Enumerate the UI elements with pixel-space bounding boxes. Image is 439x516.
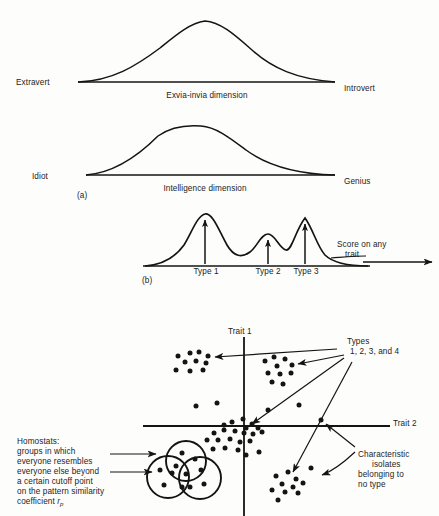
scatter-dot <box>230 420 235 425</box>
genius-pole-label: Genius <box>344 177 371 187</box>
scatter-dot <box>283 490 288 495</box>
homostats-line-4: a certain cutoff point <box>17 477 93 487</box>
exvia-invia-curve-group <box>78 21 335 82</box>
scatter-dot <box>216 438 221 443</box>
exvia-invia-curve <box>78 21 335 82</box>
scatter-dot <box>291 485 296 490</box>
scatter-dot <box>266 371 271 376</box>
isolates-label-line2: isolates <box>372 460 401 470</box>
scatter-dot <box>215 401 220 406</box>
scatter-dot <box>188 369 193 374</box>
scatter-dot <box>180 485 185 490</box>
homostat-circle-3 <box>179 457 221 499</box>
scatter-dot <box>188 351 193 356</box>
homostats-line-6: coefficient rp <box>17 497 64 509</box>
scatter-dot <box>223 446 228 451</box>
cluster-type-4 <box>270 470 306 503</box>
scatter-dot <box>199 468 204 473</box>
homostats-line-2: everyone resembles <box>17 457 93 467</box>
scatter-dot <box>241 417 246 422</box>
score-on-any-trait-label-line1: Score on any <box>337 240 386 250</box>
isolates-arrow-upper <box>326 424 355 447</box>
scatter-annotation-arrows <box>110 349 355 475</box>
extravert-pole-label: Extravert <box>16 78 50 88</box>
scatter-dot <box>184 472 189 477</box>
figure-vector-layer <box>0 0 439 516</box>
cluster-type-2 <box>263 355 295 387</box>
scatter-dot <box>193 457 198 462</box>
scatter-dot <box>183 360 188 365</box>
scatter-dot <box>174 368 179 373</box>
scatter-dot <box>204 361 209 366</box>
scatter-dot <box>244 453 249 458</box>
intelligence-dimension-label: Intelligence dimension <box>110 184 300 194</box>
types-label-line1: Types <box>347 337 369 347</box>
homostat-circle-2 <box>147 456 189 498</box>
scatter-dot <box>276 498 281 503</box>
scatter-dot <box>294 477 299 482</box>
scatter-dot <box>162 483 167 488</box>
scatter-dot <box>280 482 285 487</box>
type-3-label: Type 3 <box>283 267 329 277</box>
isolates-label-line3: belonging to <box>358 470 404 480</box>
scatter-dot <box>212 431 217 436</box>
scatter-dot <box>263 359 268 364</box>
scatter-dot <box>297 403 302 408</box>
scatter-dot <box>236 448 241 453</box>
scatter-dot <box>256 426 261 431</box>
panel-b-id: (b) <box>142 276 152 286</box>
isolates-label-line4: no type <box>358 480 386 490</box>
scatter-dot <box>290 363 295 368</box>
trait-1-axis-label: Trait 1 <box>228 327 252 337</box>
idiot-pole-label: Idiot <box>32 172 48 182</box>
scatter-dot <box>275 364 280 369</box>
isolates-arrow-lower <box>322 452 355 475</box>
scatter-dot <box>281 382 286 387</box>
score-on-any-trait-label-line2: trait <box>345 250 359 260</box>
scatter-dot <box>296 491 301 496</box>
exvia-invia-dimension-label: Exvia-invia dimension <box>112 91 302 101</box>
types-arrow-to-cluster-3 <box>252 358 344 424</box>
scatter-dot <box>180 451 185 456</box>
panel-a-id: (a) <box>77 191 87 201</box>
scatter-dot <box>286 470 291 475</box>
types-label-line2: 1, 2, 3, and 4 <box>350 347 399 357</box>
scatter-dot <box>188 485 193 490</box>
scatter-dot <box>278 372 283 377</box>
scatter-dot <box>274 474 279 479</box>
scatter-dot <box>170 471 175 476</box>
scatter-dot <box>202 482 207 487</box>
scatter-dot <box>270 380 275 385</box>
scatter-dot <box>270 488 275 493</box>
homostats-coefficient-text: coefficient <box>17 497 57 506</box>
scatter-dot <box>233 429 238 434</box>
scatter-dot <box>194 404 199 409</box>
cluster-type-3 <box>205 417 265 458</box>
scatter-dot <box>176 354 181 359</box>
homostats-line-3: everyone else beyond <box>17 467 99 477</box>
cluster-type-1 <box>174 350 211 374</box>
scatter-dot <box>201 368 206 373</box>
intelligence-curve <box>86 126 335 175</box>
scatter-dot <box>197 350 202 355</box>
homostats-line-1: groups in which <box>17 447 75 457</box>
introvert-pole-label: Introvert <box>344 84 375 94</box>
scatter-dot <box>257 450 262 455</box>
scatter-dot <box>238 440 243 445</box>
figure-root: Extravert Introvert Exvia-invia dimensio… <box>0 0 439 516</box>
scatter-dot <box>211 447 216 452</box>
scatter-dot <box>158 468 163 473</box>
types-arrow-to-cluster-4 <box>293 362 352 472</box>
intelligence-curve-group <box>86 126 335 175</box>
scatter-dot <box>174 464 179 469</box>
scatter-axes-group <box>143 337 390 516</box>
scatter-dot <box>283 357 288 362</box>
scatter-dot <box>248 439 253 444</box>
scatter-dot <box>260 430 265 435</box>
scatter-dot <box>205 438 210 443</box>
trait-2-axis-label: Trait 2 <box>393 419 417 429</box>
isolates-label-line1: Characteristic <box>358 450 409 460</box>
scatter-dot <box>206 354 211 359</box>
scatter-dot <box>272 355 277 360</box>
scatter-dot <box>301 481 306 486</box>
